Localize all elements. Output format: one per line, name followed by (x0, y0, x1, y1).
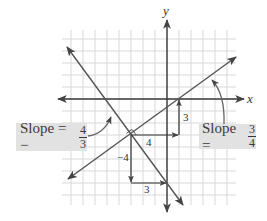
x-axis-label: x (246, 91, 253, 106)
left-slope-fraction: 4 3 (79, 125, 87, 150)
coordinate-diagram: x y 4 3 −4 3 (0, 0, 267, 221)
grid (62, 30, 236, 205)
left-slope-denominator: 3 (80, 139, 86, 150)
left-slope-numerator: 4 (80, 125, 86, 136)
y-axis-label: y (161, 3, 169, 18)
left-slope-prefix: Slope = − (20, 120, 77, 154)
left-callout-arrow (88, 117, 111, 136)
right-slope-denominator: 4 (249, 138, 255, 149)
right-slope-numerator: 3 (249, 124, 255, 135)
right-slope-fraction: 3 4 (248, 124, 256, 149)
run-label-negative: 3 (144, 183, 150, 195)
right-slope-callout: Slope = 3 4 (199, 124, 256, 149)
left-slope-callout: Slope = − 4 3 (16, 123, 87, 151)
rise-label-positive: 3 (183, 111, 189, 123)
run-label-positive: 4 (146, 136, 152, 148)
right-slope-prefix: Slope = (202, 120, 246, 154)
rise-label-negative: −4 (117, 151, 129, 163)
